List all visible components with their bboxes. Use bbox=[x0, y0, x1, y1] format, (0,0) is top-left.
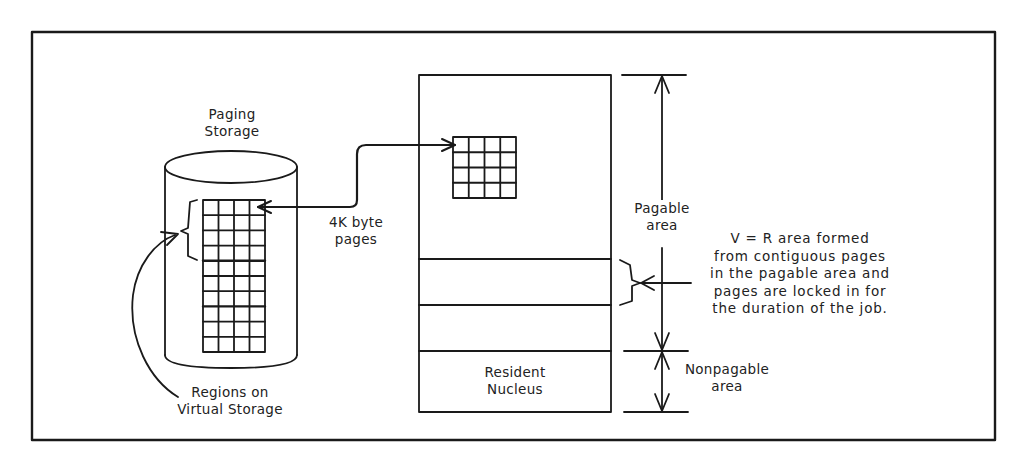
nonpagable-area-label: Nonpagable area bbox=[672, 361, 782, 395]
resident-nucleus-line-1: Resident bbox=[465, 364, 565, 381]
vr-area-note: V = R area formed from contiguous pages … bbox=[695, 230, 905, 318]
paging-storage-label: Paging Storage bbox=[196, 106, 268, 140]
vr-area-brace bbox=[620, 260, 640, 305]
paging-storage-cylinder bbox=[165, 151, 297, 368]
page-size-label: 4K byte pages bbox=[318, 214, 394, 248]
regions-pointer-arrow bbox=[132, 235, 178, 397]
page-size-line-2: pages bbox=[318, 231, 394, 248]
regions-pointer-arrowhead bbox=[161, 232, 178, 245]
regions-label: Regions on Virtual Storage bbox=[165, 384, 295, 418]
real-storage-box bbox=[419, 75, 611, 412]
real-storage-page-grid bbox=[453, 137, 516, 198]
region-brace bbox=[181, 200, 197, 260]
vr-note-line-1: V = R area formed bbox=[695, 230, 905, 248]
paging-storage-line-2: Storage bbox=[196, 123, 268, 140]
paging-storage-line-1: Paging bbox=[196, 106, 268, 123]
vr-note-line-3: in the pagable area and bbox=[695, 265, 905, 283]
region-grid bbox=[203, 200, 265, 352]
pagable-area-label: Pagable area bbox=[628, 200, 696, 234]
nonpagable-area-line-1: Nonpagable bbox=[672, 361, 782, 378]
vr-note-line-2: from contiguous pages bbox=[695, 248, 905, 266]
regions-line-2: Virtual Storage bbox=[165, 401, 295, 418]
diagram-stage: Paging Storage 4K byte pages Regions on … bbox=[0, 0, 1031, 470]
vr-note-line-5: the duration of the job. bbox=[695, 300, 905, 318]
resident-nucleus-label: Resident Nucleus bbox=[465, 364, 565, 398]
vr-note-line-4: pages are locked in for bbox=[695, 283, 905, 301]
resident-nucleus-line-2: Nucleus bbox=[465, 381, 565, 398]
regions-line-1: Regions on bbox=[165, 384, 295, 401]
pagable-area-line-2: area bbox=[628, 217, 696, 234]
page-size-line-1: 4K byte bbox=[318, 214, 394, 231]
nonpagable-area-line-2: area bbox=[672, 378, 782, 395]
pagable-area-line-1: Pagable bbox=[628, 200, 696, 217]
